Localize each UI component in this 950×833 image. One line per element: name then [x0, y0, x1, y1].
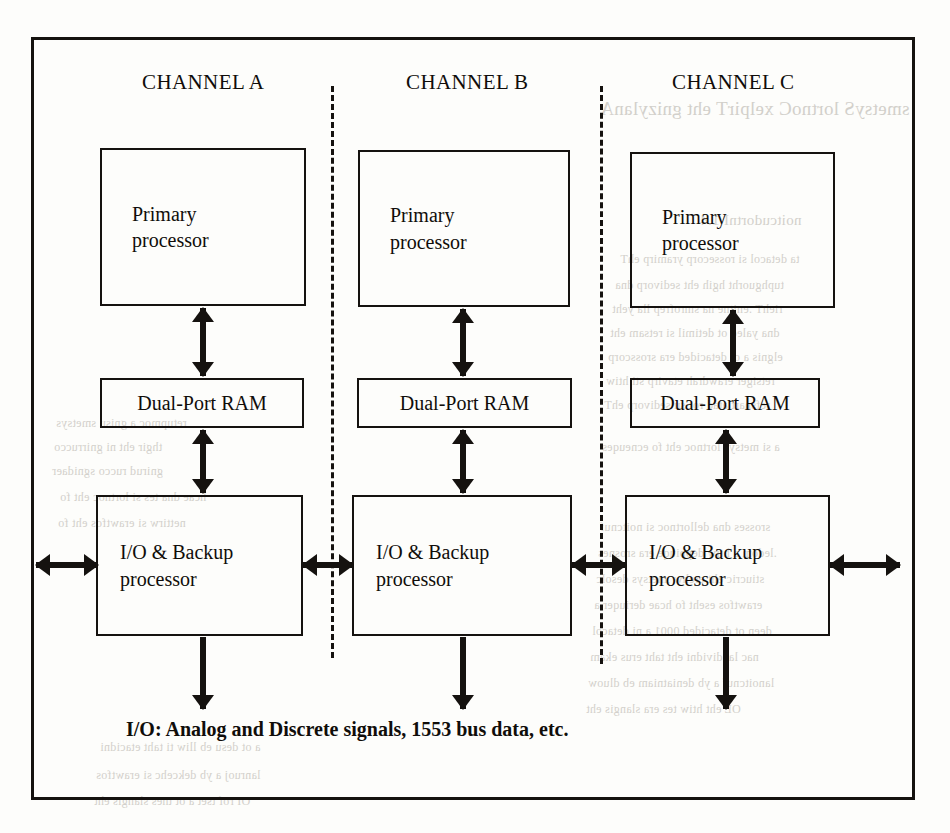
primary-processor-box-b: Primary processor: [358, 150, 570, 307]
arrow-head-down-icon: [452, 479, 474, 494]
arrow-head-down-icon: [715, 479, 737, 494]
arrow-head-down-icon: [722, 362, 744, 377]
arrow-head-up-icon: [452, 429, 474, 444]
io-caption: I/O: Analog and Discrete signals, 1553 b…: [126, 718, 568, 741]
block-label: I/O & Backup processor: [627, 539, 762, 592]
channel-header-a: CHANNEL A: [142, 70, 264, 95]
arrow-head-down-icon: [192, 695, 214, 710]
arrow-head-up-icon: [722, 309, 744, 324]
arrow-head-up-icon: [452, 308, 474, 323]
arrow-head-right-icon: [339, 554, 354, 576]
dual-port-ram-box-c: Dual-Port RAM: [630, 378, 820, 428]
block-label: Primary processor: [102, 201, 209, 254]
arrow-head-right-icon: [886, 554, 901, 576]
arrow-head-down-icon: [192, 479, 214, 494]
block-label: Dual-Port RAM: [137, 390, 266, 416]
arrow-head-down-icon: [452, 695, 474, 710]
arrow-head-up-icon: [192, 307, 214, 322]
arrow-head-right-icon: [84, 554, 99, 576]
arrow-head-left-icon: [571, 554, 586, 576]
channel-header-b: CHANNEL B: [406, 70, 528, 95]
channel-divider-2: [600, 86, 603, 664]
block-label: Dual-Port RAM: [400, 390, 529, 416]
dual-port-ram-box-a: Dual-Port RAM: [100, 378, 304, 428]
arrow-head-down-icon: [715, 695, 737, 710]
primary-processor-box-c: Primary processor: [630, 152, 835, 308]
block-label: Dual-Port RAM: [660, 390, 789, 416]
dual-port-ram-box-b: Dual-Port RAM: [357, 378, 572, 428]
channel-header-c: CHANNEL C: [672, 70, 794, 95]
arrow-head-right-icon: [612, 554, 627, 576]
io-backup-processor-box-c: I/O & Backup processor: [625, 495, 830, 636]
block-label: I/O & Backup processor: [98, 539, 233, 592]
arrow-head-down-icon: [452, 362, 474, 377]
arrow-head-up-icon: [192, 429, 214, 444]
io-backup-processor-box-a: I/O & Backup processor: [96, 495, 303, 636]
channel-divider-1: [331, 86, 334, 658]
scanned-diagram-page: smetsyS lortnoC xelpirT eht gnizylanAnoi…: [0, 0, 950, 833]
io-backup-processor-box-b: I/O & Backup processor: [352, 495, 572, 636]
primary-processor-box-a: Primary processor: [100, 148, 306, 306]
arrow-head-down-icon: [192, 362, 214, 377]
arrow-head-left-icon: [829, 554, 844, 576]
block-label: Primary processor: [632, 204, 739, 257]
arrow-head-left-icon: [35, 554, 50, 576]
block-label: Primary processor: [360, 202, 467, 255]
arrow-head-left-icon: [302, 554, 317, 576]
block-label: I/O & Backup processor: [354, 539, 489, 592]
arrow-head-up-icon: [715, 429, 737, 444]
